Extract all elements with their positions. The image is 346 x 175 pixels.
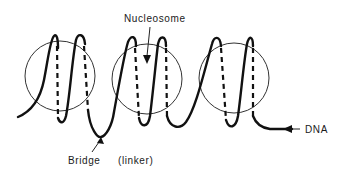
bridge-label: Bridge [68, 155, 101, 166]
linker-label: (linker) [118, 155, 153, 166]
dna-back-segment [57, 46, 58, 118]
dna-back-segment [135, 48, 139, 118]
bridge-arrowhead-icon [97, 137, 104, 144]
nucleosome-arrowhead-icon [143, 55, 151, 64]
dna-back-segment [221, 48, 226, 120]
nucleosome-label: Nucleosome [124, 13, 186, 24]
dna-back-segment [166, 48, 167, 116]
dna-label: DNA [305, 124, 328, 135]
nucleosome-diagram: Nucleosome Bridge (linker) DNA [0, 0, 346, 175]
dna-back-segments [57, 46, 253, 120]
dna-strand [18, 35, 292, 137]
bridge-pointer-line [92, 142, 99, 152]
dna-arrowhead-icon [283, 125, 292, 133]
nucleosome-pointer-line [147, 27, 150, 56]
